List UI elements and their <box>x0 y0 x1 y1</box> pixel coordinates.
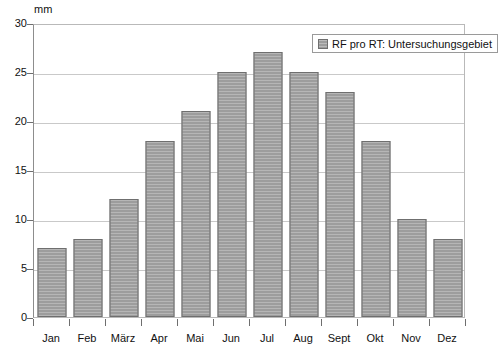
bar-slot <box>430 25 466 317</box>
y-axis-tick <box>27 171 33 172</box>
y-axis-label: 20 <box>0 116 27 127</box>
x-axis-tick <box>393 319 394 326</box>
bar-slot <box>70 25 106 317</box>
legend-swatch-icon <box>318 39 328 49</box>
bar[interactable] <box>254 52 283 317</box>
bar-slot <box>34 25 70 317</box>
x-axis-tick <box>69 319 70 326</box>
x-axis-tick <box>105 319 106 326</box>
y-axis-label: 15 <box>0 165 27 176</box>
y-axis-tick <box>27 269 33 270</box>
y-axis-label: 25 <box>0 67 27 78</box>
x-axis-label: Okt <box>357 332 393 344</box>
x-axis-label: Jul <box>249 332 285 344</box>
x-axis-label: März <box>105 332 141 344</box>
bar[interactable] <box>182 111 211 317</box>
x-axis-label: Sept <box>321 332 357 344</box>
y-axis-unit-label: mm <box>34 3 53 15</box>
bar[interactable] <box>326 92 355 317</box>
bar-slot <box>394 25 430 317</box>
bar[interactable] <box>434 239 463 317</box>
x-axis-label: Nov <box>393 332 429 344</box>
bar[interactable] <box>290 72 319 317</box>
x-axis-tick <box>249 319 250 326</box>
bar-slot <box>250 25 286 317</box>
legend-entry-label: RF pro RT: Untersuchungsgebiet <box>332 38 492 50</box>
y-axis-tick <box>27 24 33 25</box>
x-axis-label: Dez <box>429 332 465 344</box>
y-axis-label: 5 <box>0 263 27 274</box>
bars-layer <box>34 25 464 317</box>
bar[interactable] <box>398 219 427 317</box>
bar[interactable] <box>218 72 247 317</box>
x-axis-tick <box>285 319 286 326</box>
y-axis-label: 10 <box>0 214 27 225</box>
chart-legend: RF pro RT: Untersuchungsgebiet <box>312 34 498 53</box>
y-axis-label: 0 <box>0 312 27 323</box>
bar-slot <box>214 25 250 317</box>
bar-slot <box>142 25 178 317</box>
y-axis-tick <box>27 73 33 74</box>
x-axis-tick <box>177 319 178 326</box>
x-axis-tick <box>357 319 358 326</box>
x-axis-tick <box>141 319 142 326</box>
bar[interactable] <box>38 248 67 317</box>
x-axis-tick <box>213 319 214 326</box>
x-axis-label: Feb <box>69 332 105 344</box>
x-axis-tick <box>465 319 466 326</box>
bar[interactable] <box>74 239 103 317</box>
y-axis-tick <box>27 122 33 123</box>
x-axis-label: Jun <box>213 332 249 344</box>
x-axis-tick <box>429 319 430 326</box>
x-axis-label: Apr <box>141 332 177 344</box>
bar[interactable] <box>146 141 175 317</box>
bar-slot <box>178 25 214 317</box>
plot-area <box>33 24 465 318</box>
x-axis-tick <box>33 319 34 326</box>
bar-slot <box>358 25 394 317</box>
bar-slot <box>106 25 142 317</box>
x-axis-label: Jan <box>33 332 69 344</box>
bar[interactable] <box>362 141 391 317</box>
y-axis-tick <box>27 220 33 221</box>
x-axis-label: Aug <box>285 332 321 344</box>
x-axis-label: Mai <box>177 332 213 344</box>
bar-slot <box>322 25 358 317</box>
y-axis-label: 30 <box>0 18 27 29</box>
bar-slot <box>286 25 322 317</box>
x-axis-tick <box>321 319 322 326</box>
bar[interactable] <box>110 199 139 317</box>
